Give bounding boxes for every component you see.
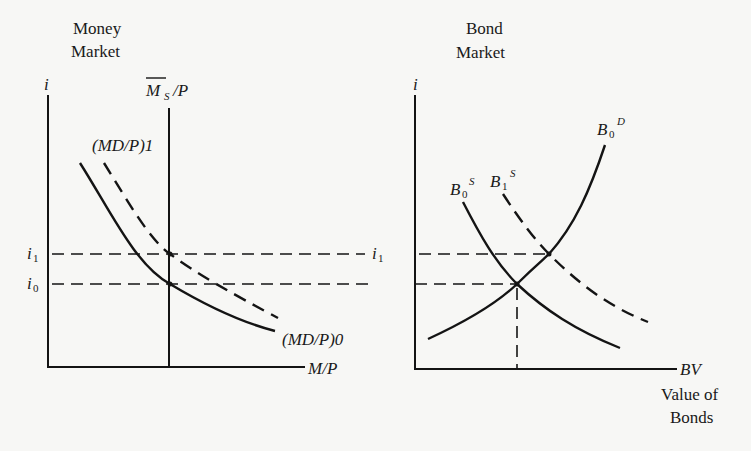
money-market-panel: Money Market i M S /P M/P i 1 i 0 (MD/P)… (27, 19, 370, 378)
bond-supply-1-label-sup: S (510, 167, 516, 179)
money-demand-1-label: (MD/P)1 (92, 136, 153, 155)
bond-market-title-line2: Market (456, 43, 505, 62)
bond-supply-1-label: B 1 S (490, 167, 516, 192)
equilibrium-point-i1-bond (547, 252, 552, 257)
equilibrium-point-i1-money (168, 252, 173, 257)
rate-i1-label-left-sub: 1 (33, 252, 39, 264)
bond-supply-0-label-sub: 0 (462, 188, 468, 200)
rate-i1-label-right: i (372, 244, 377, 263)
bond-demand-0-label: B 0 D (597, 115, 625, 140)
bond-demand-0-label-main: B (597, 120, 608, 139)
bond-supply-curve-0 (463, 202, 620, 348)
bond-supply-0-label-main: B (450, 180, 461, 199)
money-market-y-axis-label: i (44, 75, 49, 94)
equilibrium-point-i0-bond (515, 282, 520, 287)
money-supply-label-tail: /P (172, 81, 188, 100)
bond-supply-1-label-main: B (490, 172, 501, 191)
bond-demand-0-label-sup: D (616, 115, 625, 127)
bond-demand-0-label-sub: 0 (609, 128, 615, 140)
money-market-x-axis-label: M/P (307, 359, 337, 378)
money-demand-0-label: (MD/P)0 (282, 330, 344, 349)
equilibrium-point-i0-money (168, 282, 173, 287)
bond-market-x-caption-line1: Value of (661, 385, 718, 404)
rate-i1-label-left: i (27, 244, 32, 263)
bond-market-x-caption-line2: Bonds (670, 408, 713, 427)
money-demand-0-label-text: (MD/P)0 (282, 330, 344, 349)
money-supply-label: M S /P (145, 78, 188, 102)
rate-i0-label-left: i (27, 274, 32, 293)
bond-market-x-axis-label: BV (680, 360, 703, 379)
money-market-title-line2: Market (71, 42, 120, 61)
bond-supply-curve-1 (503, 194, 648, 322)
money-bond-market-diagram: Money Market i M S /P M/P i 1 i 0 (MD/P)… (0, 0, 751, 451)
rate-i0-label-left-sub: 0 (33, 282, 39, 294)
bond-market-panel: Bond Market i BV Value of Bonds i 1 B 0 … (372, 19, 718, 427)
bond-market-title-line1: Bond (466, 19, 503, 38)
money-demand-1-label-text: (MD/P)1 (92, 136, 153, 155)
money-demand-curve-0 (80, 163, 275, 331)
money-supply-label-sub: S (164, 90, 170, 102)
money-market-title-line1: Money (73, 19, 122, 38)
bond-market-y-axis-label: i (413, 75, 418, 94)
bond-supply-0-label: B 0 S (450, 175, 475, 200)
money-supply-label-main: M (145, 81, 161, 100)
bond-supply-1-label-sub: 1 (502, 180, 508, 192)
rate-i1-label-right-sub: 1 (378, 252, 384, 264)
bond-supply-0-label-sup: S (469, 175, 475, 187)
